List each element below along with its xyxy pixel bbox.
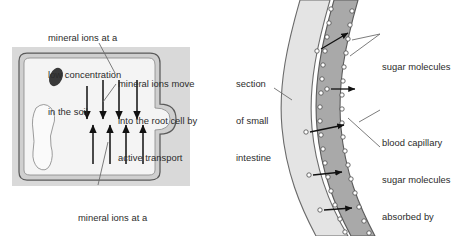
label-line: blood capillary — [382, 137, 442, 149]
label-high-concentration-root-cell: mineral ions at a high concentration in … — [78, 188, 155, 236]
label-low-concentration-soil: mineral ions at a low concentration in t… — [48, 8, 121, 142]
label-section-of-small-intestine: section of small intestine — [236, 54, 271, 188]
label-line: absorbed by — [382, 211, 451, 223]
label-line: active transport — [118, 152, 197, 164]
label-line: in the soil — [48, 106, 121, 118]
label-sugar-absorbed-active-transport: sugar molecules absorbed by active trans… — [382, 150, 451, 236]
label-line: section — [236, 78, 271, 90]
label-active-transport-into-cell: mineral ions move into the root cell by … — [118, 54, 197, 188]
label-line: sugar molecules — [382, 61, 451, 73]
label-line: mineral ions at a — [78, 212, 155, 224]
label-line: of small — [236, 115, 271, 127]
label-line: mineral ions at a — [48, 32, 121, 44]
label-line: intestine — [236, 152, 271, 164]
label-line: sugar molecules — [382, 174, 451, 186]
label-line: into the root cell by — [118, 115, 197, 127]
label-line: low concentration — [48, 69, 121, 81]
figure-canvas: mineral ions at a low concentration in t… — [0, 0, 463, 236]
label-line: mineral ions move — [118, 78, 197, 90]
label-sugar-molecules: sugar molecules — [382, 37, 451, 98]
